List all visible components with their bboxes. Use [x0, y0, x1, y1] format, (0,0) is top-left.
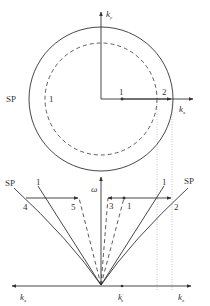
kx-prime-label: k′x [118, 292, 124, 303]
kx-prime-dot [121, 285, 124, 288]
sp-circle-label: SP [6, 94, 16, 104]
kx-label: kx [179, 104, 186, 115]
top-panel: ky kx SP 1 1 2 [6, 9, 193, 171]
dashed-circle-label: 1 [49, 94, 54, 104]
point-4-label: 4 [23, 202, 28, 212]
sp-left-label: SP [5, 178, 15, 188]
mode1-line-left [38, 186, 101, 285]
kx-left-label: kx [20, 292, 27, 303]
dispersion-diagram: ky kx SP 1 1 2 ω kx k′x kx [0, 0, 210, 306]
kx-right-label: kx [178, 292, 185, 303]
point-2-label: 2 [162, 87, 167, 97]
point-2-label-bottom: 2 [174, 202, 179, 212]
mode1-right-label: 1 [162, 177, 167, 187]
point-3-label: 3 [109, 201, 114, 211]
dashed-line-5 [79, 198, 101, 285]
point-5-label: 5 [71, 202, 76, 212]
ky-label: ky [106, 9, 113, 20]
point-1-label: 1 [119, 87, 124, 97]
omega-label: ω [91, 184, 97, 194]
dashed-line-3 [101, 198, 108, 285]
mode1-left-label: 1 [36, 177, 41, 187]
sp-right-label: SP [184, 176, 194, 186]
point-1-dot-bottom [123, 197, 126, 200]
bottom-panel: ω kx k′x kx SP 1 1 SP 4 5 3 1 2 [5, 176, 194, 303]
point-1-label-bottom: 1 [127, 201, 132, 211]
